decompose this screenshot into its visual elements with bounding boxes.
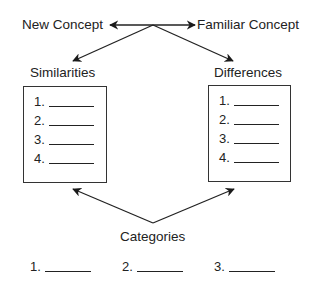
blank-line[interactable]	[234, 150, 279, 163]
difference-item-3: 3.	[219, 131, 279, 146]
similarity-item-4: 4.	[34, 151, 94, 166]
similarity-item-2: 2.	[34, 113, 94, 128]
categories-title: Categories	[120, 229, 185, 245]
blank-line[interactable]	[45, 259, 91, 272]
new-concept-label: New Concept	[22, 17, 103, 33]
differences-box: 1. 2. 3. 4.	[208, 85, 291, 182]
category-item-3: 3.	[214, 259, 275, 274]
blank-line[interactable]	[234, 93, 279, 106]
blank-line[interactable]	[137, 259, 183, 272]
blank-line[interactable]	[49, 94, 94, 107]
difference-item-4: 4.	[219, 150, 279, 165]
blank-line[interactable]	[49, 151, 94, 164]
similarities-title: Similarities	[30, 65, 95, 81]
differences-title: Differences	[214, 65, 282, 81]
similarity-item-1: 1.	[34, 94, 94, 109]
similarity-item-3: 3.	[34, 132, 94, 147]
difference-item-2: 2.	[219, 112, 279, 127]
blank-line[interactable]	[49, 113, 94, 126]
arrow-categories-to-similarities	[73, 189, 153, 223]
blank-line[interactable]	[234, 112, 279, 125]
familiar-concept-label: Familiar Concept	[197, 17, 299, 33]
category-item-2: 2.	[122, 259, 183, 274]
blank-line[interactable]	[234, 131, 279, 144]
difference-item-1: 1.	[219, 93, 279, 108]
blank-line[interactable]	[229, 259, 275, 272]
similarities-box: 1. 2. 3. 4.	[23, 86, 107, 183]
blank-line[interactable]	[49, 132, 94, 145]
arrow-categories-to-differences	[153, 189, 234, 223]
category-item-1: 1.	[30, 259, 91, 274]
